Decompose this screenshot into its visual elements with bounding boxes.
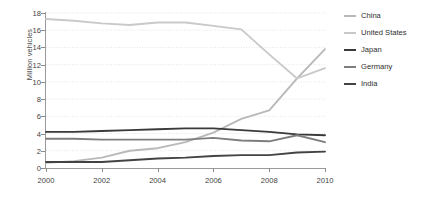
- legend-label: United States: [361, 28, 407, 37]
- x-tick-label: 2004: [138, 176, 178, 185]
- legend-item-china[interactable]: China: [344, 7, 439, 24]
- y-tick-label: 12: [3, 60, 41, 69]
- legend-swatch: [344, 49, 356, 51]
- y-tick: [41, 30, 45, 31]
- x-tick-label: 2008: [249, 176, 289, 185]
- y-tick-label: 10: [3, 77, 41, 86]
- y-tick-label: 4: [3, 129, 41, 138]
- legend-label: India: [361, 79, 377, 88]
- legend-label: Japan: [361, 45, 382, 54]
- line-chart: Million vehicles 024681012141618 2000200…: [0, 0, 439, 203]
- x-tick: [158, 168, 159, 172]
- y-tick: [41, 82, 45, 83]
- legend-item-united-states[interactable]: United States: [344, 24, 439, 41]
- legend-item-india[interactable]: India: [344, 75, 439, 92]
- y-tick: [41, 99, 45, 100]
- y-tick-label: 6: [3, 112, 41, 121]
- y-tick-label: 0: [3, 164, 41, 173]
- legend-swatch: [344, 15, 356, 17]
- legend: ChinaUnited StatesJapanGermanyIndia: [344, 7, 439, 92]
- y-tick-label: 16: [3, 26, 41, 35]
- series-lines: [46, 13, 325, 168]
- y-tick: [41, 116, 45, 117]
- x-tick: [213, 168, 214, 172]
- y-tick: [41, 168, 45, 169]
- legend-swatch: [344, 66, 356, 68]
- plot-area: [46, 13, 325, 168]
- legend-item-germany[interactable]: Germany: [344, 58, 439, 75]
- legend-label: Germany: [361, 62, 392, 71]
- x-tick: [102, 168, 103, 172]
- y-tick: [41, 47, 45, 48]
- legend-swatch: [344, 83, 356, 85]
- y-tick-label: 18: [3, 9, 41, 18]
- x-tick-label: 2010: [305, 176, 345, 185]
- x-tick: [269, 168, 270, 172]
- legend-swatch: [344, 32, 356, 34]
- y-tick-label: 14: [3, 43, 41, 52]
- series-line-india: [46, 152, 325, 162]
- series-line-united-states: [46, 19, 325, 78]
- y-tick: [41, 13, 45, 14]
- x-tick-label: 2000: [26, 176, 66, 185]
- legend-label: China: [361, 11, 381, 20]
- y-tick: [41, 65, 45, 66]
- x-tick: [46, 168, 47, 172]
- y-tick-label: 2: [3, 146, 41, 155]
- x-tick-label: 2002: [82, 176, 122, 185]
- x-tick-label: 2006: [193, 176, 233, 185]
- series-line-japan: [46, 128, 325, 135]
- y-tick-label: 8: [3, 95, 41, 104]
- legend-item-japan[interactable]: Japan: [344, 41, 439, 58]
- y-tick: [41, 134, 45, 135]
- series-line-germany: [46, 135, 325, 142]
- y-tick: [41, 151, 45, 152]
- x-axis-line: [45, 168, 326, 169]
- x-tick: [325, 168, 326, 172]
